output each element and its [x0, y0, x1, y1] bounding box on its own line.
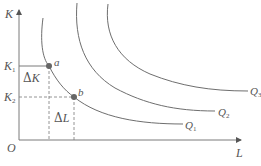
- q1-label: Q1: [185, 119, 197, 133]
- isoquant-diagram: K L O K1 K2 a b ΔK ΔL Q1 Q2 Q3: [0, 0, 261, 166]
- y-axis-label: K: [4, 7, 14, 21]
- isoquant-q2: [77, 3, 215, 111]
- point-a-label: a: [54, 56, 60, 68]
- delta-l-label: ΔL: [54, 111, 70, 125]
- point-b-marker: [71, 94, 77, 100]
- k1-label: K1: [3, 59, 16, 74]
- isoquant-q3: [107, 4, 248, 91]
- q3-label: Q3: [250, 85, 261, 99]
- point-a-marker: [46, 63, 52, 69]
- x-axis-label: L: [235, 146, 243, 160]
- origin-label: O: [7, 141, 16, 155]
- q2-label: Q2: [218, 106, 230, 120]
- point-b-label: b: [78, 86, 84, 98]
- isoquant-q1: [42, 18, 183, 124]
- delta-k-label: ΔK: [23, 71, 41, 85]
- k2-label: K2: [3, 90, 16, 105]
